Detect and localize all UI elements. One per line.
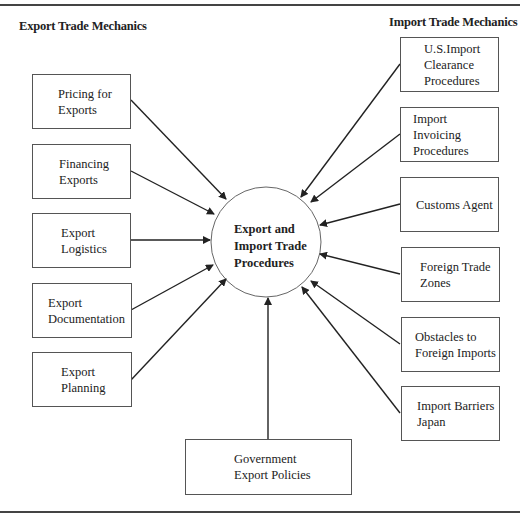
export-box-planning: Export Planning [32, 352, 132, 407]
export-box-financing: Financing Exports [32, 144, 131, 199]
import-box-barriers-japan: Import Barriers Japan [401, 386, 500, 441]
export-box-pricing: Pricing for Exports [32, 74, 131, 129]
center-node-label: Export and Import Trade Procedures [234, 221, 307, 272]
import-box-foreign-trade-zones: Foreign Trade Zones [401, 247, 500, 302]
box-label: Financing Exports [59, 156, 109, 188]
export-box-logistics: Export Logistics [32, 213, 131, 268]
box-label: Import Barriers Japan [417, 398, 494, 430]
box-label: Export Documentation [48, 295, 125, 327]
box-label: Obstacles to Foreign Imports [415, 329, 496, 361]
import-box-customs-agent: Customs Agent [400, 177, 499, 232]
box-label: Foreign Trade Zones [420, 259, 491, 291]
box-label: Export Planning [61, 364, 105, 396]
box-label: Government Export Policies [234, 451, 311, 483]
box-label: Export Logistics [61, 225, 107, 257]
box-label: Customs Agent [416, 197, 493, 213]
import-box-obstacles: Obstacles to Foreign Imports [401, 317, 500, 372]
import-box-invoicing: Import Invoicing Procedures [400, 107, 499, 162]
import-box-clearance: U.S.Import Clearance Procedures [400, 37, 499, 92]
box-label: Pricing for Exports [58, 86, 112, 118]
box-label: Import Invoicing Procedures [413, 111, 498, 159]
export-box-documentation: Export Documentation [32, 283, 132, 338]
government-export-policies-box: Government Export Policies [185, 439, 352, 495]
box-label: U.S.Import Clearance Procedures [424, 41, 480, 89]
